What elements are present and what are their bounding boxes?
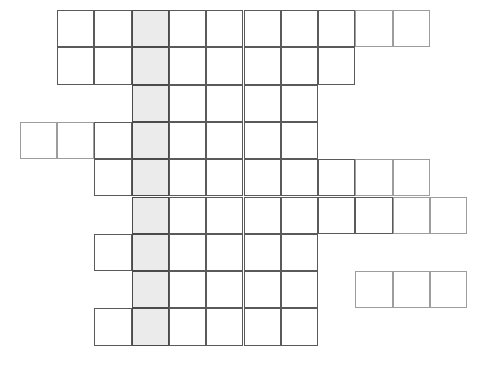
grid-cell-highlighted[interactable] bbox=[132, 234, 169, 271]
cell-letter bbox=[356, 160, 391, 195]
grid-cell-highlighted[interactable] bbox=[132, 159, 169, 196]
grid-cell[interactable] bbox=[318, 47, 355, 84]
grid-cell[interactable] bbox=[94, 47, 131, 84]
grid-cell[interactable] bbox=[169, 197, 206, 234]
cell-letter bbox=[133, 48, 168, 83]
grid-cell[interactable] bbox=[169, 85, 206, 122]
cell-letter bbox=[170, 160, 205, 195]
cell-letter bbox=[282, 86, 317, 121]
cell-letter bbox=[207, 48, 242, 83]
grid-cell[interactable] bbox=[244, 197, 281, 234]
grid-cell-highlighted[interactable] bbox=[132, 308, 169, 345]
grid-cell[interactable] bbox=[355, 10, 392, 47]
grid-cell[interactable] bbox=[94, 122, 131, 159]
grid-cell[interactable] bbox=[244, 47, 281, 84]
grid-cell[interactable] bbox=[169, 234, 206, 271]
grid-cell-highlighted[interactable] bbox=[132, 85, 169, 122]
grid-cell[interactable] bbox=[281, 122, 318, 159]
cell-letter bbox=[319, 11, 354, 46]
cell-letter bbox=[356, 272, 391, 307]
cell-letter bbox=[133, 86, 168, 121]
grid-cell[interactable] bbox=[281, 308, 318, 345]
grid-cell[interactable] bbox=[94, 10, 131, 47]
cell-letter bbox=[394, 272, 429, 307]
grid-cell[interactable] bbox=[244, 85, 281, 122]
grid-cell[interactable] bbox=[355, 159, 392, 196]
grid-cell[interactable] bbox=[206, 308, 243, 345]
grid-cell[interactable] bbox=[281, 85, 318, 122]
grid-cell[interactable] bbox=[281, 197, 318, 234]
grid-cell[interactable] bbox=[244, 122, 281, 159]
grid-cell[interactable] bbox=[244, 10, 281, 47]
cell-letter bbox=[207, 198, 242, 233]
grid-cell-highlighted[interactable] bbox=[132, 197, 169, 234]
cell-letter bbox=[282, 48, 317, 83]
cell-letter bbox=[207, 309, 242, 344]
grid-cell-highlighted[interactable] bbox=[132, 122, 169, 159]
grid-cell[interactable] bbox=[244, 159, 281, 196]
grid-cell[interactable] bbox=[430, 271, 467, 308]
cell-letter bbox=[207, 160, 242, 195]
grid-cell[interactable] bbox=[244, 308, 281, 345]
grid-cell[interactable] bbox=[94, 159, 131, 196]
grid-cell[interactable] bbox=[244, 234, 281, 271]
cell-letter bbox=[394, 11, 429, 46]
grid-cell-highlighted[interactable] bbox=[132, 47, 169, 84]
cell-letter bbox=[282, 160, 317, 195]
grid-cell[interactable] bbox=[169, 159, 206, 196]
cell-letter bbox=[356, 198, 391, 233]
cell-letter bbox=[207, 272, 242, 307]
grid-cell[interactable] bbox=[206, 10, 243, 47]
grid-cell[interactable] bbox=[206, 271, 243, 308]
cell-letter bbox=[245, 11, 280, 46]
grid-cell[interactable] bbox=[393, 197, 430, 234]
grid-cell[interactable] bbox=[20, 122, 57, 159]
cell-letter bbox=[282, 235, 317, 270]
grid-cell[interactable] bbox=[206, 47, 243, 84]
grid-cell[interactable] bbox=[281, 234, 318, 271]
grid-cell-highlighted[interactable] bbox=[132, 10, 169, 47]
cell-letter bbox=[207, 11, 242, 46]
grid-cell[interactable] bbox=[169, 47, 206, 84]
grid-cell[interactable] bbox=[355, 197, 392, 234]
grid-cell[interactable] bbox=[94, 308, 131, 345]
grid-cell[interactable] bbox=[281, 47, 318, 84]
grid-cell[interactable] bbox=[355, 271, 392, 308]
cell-letter bbox=[133, 198, 168, 233]
grid-cell[interactable] bbox=[318, 197, 355, 234]
grid-cell[interactable] bbox=[281, 271, 318, 308]
grid-cell[interactable] bbox=[94, 234, 131, 271]
grid-cell[interactable] bbox=[393, 159, 430, 196]
grid-cell[interactable] bbox=[206, 159, 243, 196]
grid-cell-highlighted[interactable] bbox=[132, 271, 169, 308]
grid-cell[interactable] bbox=[393, 10, 430, 47]
grid-cell[interactable] bbox=[318, 10, 355, 47]
cell-letter bbox=[170, 123, 205, 158]
grid-cell[interactable] bbox=[393, 271, 430, 308]
grid-cell[interactable] bbox=[57, 10, 94, 47]
cell-letter bbox=[207, 235, 242, 270]
grid-cell[interactable] bbox=[57, 122, 94, 159]
grid-cell[interactable] bbox=[281, 10, 318, 47]
cell-letter bbox=[133, 160, 168, 195]
grid-cell[interactable] bbox=[169, 271, 206, 308]
cell-letter bbox=[245, 86, 280, 121]
cell-letter bbox=[431, 198, 466, 233]
grid-cell[interactable] bbox=[206, 122, 243, 159]
grid-cell[interactable] bbox=[281, 159, 318, 196]
cell-letter bbox=[133, 272, 168, 307]
cell-letter bbox=[170, 272, 205, 307]
grid-cell[interactable] bbox=[206, 234, 243, 271]
cell-letter bbox=[21, 123, 56, 158]
grid-cell[interactable] bbox=[430, 197, 467, 234]
grid-cell[interactable] bbox=[244, 271, 281, 308]
grid-cell[interactable] bbox=[318, 159, 355, 196]
grid-cell[interactable] bbox=[57, 47, 94, 84]
grid-cell[interactable] bbox=[169, 122, 206, 159]
grid-cell[interactable] bbox=[206, 85, 243, 122]
grid-cell[interactable] bbox=[169, 308, 206, 345]
cell-letter bbox=[95, 48, 130, 83]
cell-letter bbox=[245, 160, 280, 195]
grid-cell[interactable] bbox=[169, 10, 206, 47]
grid-cell[interactable] bbox=[206, 197, 243, 234]
